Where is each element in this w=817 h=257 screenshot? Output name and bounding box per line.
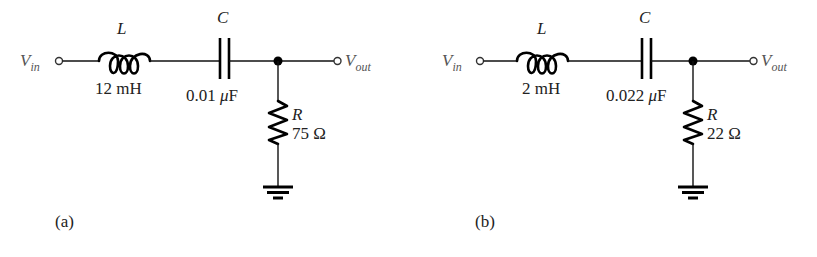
resistor-value-b: 22 Ω xyxy=(707,124,741,143)
inductor-symbol-a: L xyxy=(116,19,126,38)
inductor-a xyxy=(99,53,150,74)
inductor-value-a: 12 mH xyxy=(95,79,142,98)
caption-b: (b) xyxy=(475,212,495,231)
resistor-b xyxy=(684,101,702,144)
capacitor-symbol-a: C xyxy=(217,8,229,27)
circuit-a: Vin L 12 mH C 0.01 μF Vout R 75 Ω (a) xyxy=(20,8,371,231)
input-terminal-a xyxy=(56,58,63,65)
vout-label-a: Vout xyxy=(345,51,371,74)
capacitor-value-a: 0.01 μF xyxy=(186,86,238,105)
circuit-b: Vin L 2 mH C 0.022 μF Vout R 22 Ω (b) xyxy=(442,8,787,231)
inductor-b xyxy=(517,53,568,74)
vin-label-b: Vin xyxy=(442,51,462,74)
vin-label-a: Vin xyxy=(20,51,40,74)
inductor-value-b: 2 mH xyxy=(522,79,560,98)
resistor-symbol-b: R xyxy=(706,105,718,124)
capacitor-value-b: 0.022 μF xyxy=(606,86,667,105)
input-terminal-b xyxy=(477,58,484,65)
ground-icon-b xyxy=(678,187,708,198)
resistor-symbol-a: R xyxy=(291,105,303,124)
resistor-a xyxy=(269,101,287,144)
caption-a: (a) xyxy=(55,212,74,231)
resistor-value-a: 75 Ω xyxy=(292,124,326,143)
output-terminal-b xyxy=(750,58,757,65)
capacitor-symbol-b: C xyxy=(639,8,651,27)
vout-label-b: Vout xyxy=(761,51,787,74)
inductor-symbol-b: L xyxy=(536,19,546,38)
output-terminal-a xyxy=(334,58,341,65)
ground-icon-a xyxy=(263,187,293,198)
circuit-figure: Vin L 12 mH C 0.01 μF Vout R 75 Ω (a) Vi… xyxy=(0,0,817,257)
